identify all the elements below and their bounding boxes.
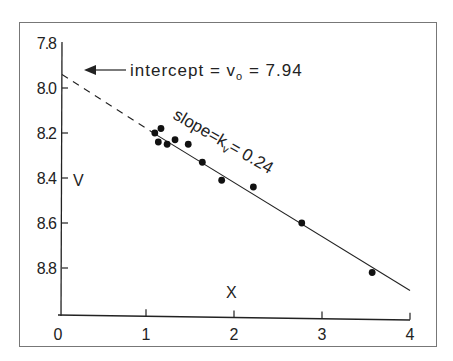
intercept-label: intercept = vo = 7.94 <box>130 61 303 82</box>
fit-line <box>155 134 410 291</box>
data-point <box>164 141 171 148</box>
x-tick-label: 0 <box>54 326 63 343</box>
y-tick-label: 8.2 <box>37 125 57 142</box>
data-point <box>218 177 225 184</box>
slope-annotation: slope=kv= 0.24 <box>169 105 277 179</box>
y-axis-label: V <box>73 172 84 189</box>
y-axis-ticks: 7.88.08.28.48.68.8 <box>37 35 68 277</box>
data-point <box>369 269 376 276</box>
data-point <box>155 139 162 146</box>
data-point <box>151 130 158 137</box>
x-tick-label: 3 <box>318 326 327 343</box>
extrapolated-fit-line <box>62 75 155 134</box>
y-tick-label: 7.8 <box>37 35 57 52</box>
y-tick-label: 8.0 <box>37 80 57 97</box>
y-tick-label: 8.6 <box>37 215 57 232</box>
data-point <box>185 141 192 148</box>
scatter-plot: 7.88.08.28.48.68.8 01234 V X intercept =… <box>0 0 453 361</box>
arrow-left-icon <box>84 65 96 75</box>
data-point <box>199 159 206 166</box>
x-axis-label: X <box>226 284 237 301</box>
x-axis-ticks: 01234 <box>54 309 415 343</box>
intercept-annotation: intercept = vo = 7.94 <box>84 61 303 82</box>
y-axis <box>61 42 62 316</box>
x-tick-label: 2 <box>230 326 239 343</box>
data-point <box>250 184 257 191</box>
x-tick-label: 4 <box>406 326 415 343</box>
slope-label: slope=kv= 0.24 <box>169 105 277 179</box>
y-tick-label: 8.4 <box>37 170 57 187</box>
data-point <box>172 136 179 143</box>
data-point <box>158 125 165 132</box>
data-point <box>298 220 305 227</box>
x-tick-label: 1 <box>142 326 151 343</box>
y-tick-label: 8.8 <box>37 260 57 277</box>
